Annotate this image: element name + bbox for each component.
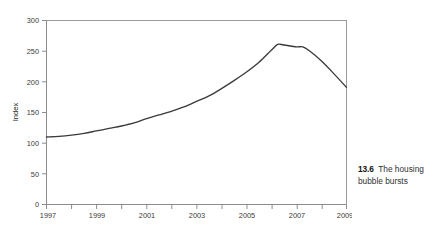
y-tick-label-0: 0 <box>35 200 39 209</box>
y-tick-label-50: 50 <box>31 170 39 179</box>
y-axis-title: Index <box>11 103 20 122</box>
line-chart: 300 250 200 150 100 50 0 <box>0 0 352 225</box>
y-tick-label-200: 200 <box>27 78 39 87</box>
x-tick-label-2007: 2007 <box>289 211 305 220</box>
x-tick-label-2003: 2003 <box>189 211 205 220</box>
x-tick-label-2005: 2005 <box>239 211 255 220</box>
series-line-index <box>47 44 347 137</box>
x-tick-label-1997: 1997 <box>40 211 56 220</box>
x-tick-label-2001: 2001 <box>139 211 155 220</box>
y-tick-label-150: 150 <box>27 108 39 117</box>
x-tick-label-2009: 2009 <box>337 211 352 220</box>
caption-number: 13.6 <box>358 164 374 174</box>
chart-area: 300 250 200 150 100 50 0 <box>0 0 352 225</box>
x-axis-labels: 1997 1999 2001 2003 2005 2007 2009 <box>40 211 352 220</box>
figure-caption: 13.6 The housing bubble bursts <box>358 164 438 187</box>
chart-axes <box>46 20 347 205</box>
y-axis-ticks: 300 250 200 150 100 50 0 <box>27 16 46 209</box>
x-axis-ticks <box>47 205 347 209</box>
y-tick-label-300: 300 <box>27 16 39 25</box>
figure-root: 300 250 200 150 100 50 0 <box>0 0 440 240</box>
y-tick-label-100: 100 <box>27 139 39 148</box>
y-tick-label-250: 250 <box>27 47 39 56</box>
x-tick-label-1999: 1999 <box>89 211 105 220</box>
